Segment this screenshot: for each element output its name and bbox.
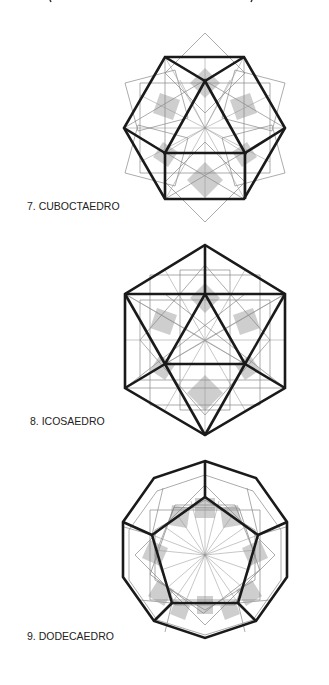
figure-label-cuboctaedro: 7. CUBOCTAEDRO — [27, 200, 120, 212]
cuboctaedro-figure — [124, 33, 285, 222]
figure-label-dodecaedro: 9. DODECAEDRO — [27, 630, 114, 642]
polyhedra-diagram — [0, 0, 329, 685]
dodecaedro-figure — [123, 461, 287, 638]
figure-label-icosaedro: 8. ICOSAEDRO — [30, 415, 105, 427]
top-edge-marks — [50, 0, 252, 2]
icosaedro-figure — [125, 245, 285, 435]
